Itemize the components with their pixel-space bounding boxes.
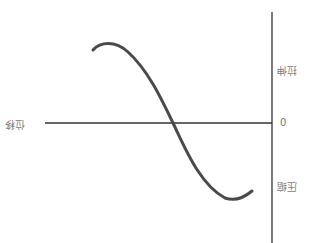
horizontal-axis-label: 位移 [5, 118, 25, 133]
sine-curve [93, 44, 252, 200]
diagram-canvas [0, 0, 316, 243]
lower-region-label: 压缩 [277, 180, 297, 195]
origin-label: 0 [280, 117, 286, 128]
upper-region-label: 拉伸 [277, 64, 297, 79]
